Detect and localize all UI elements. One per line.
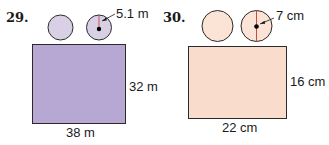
center-dot-29 <box>97 27 101 31</box>
width-label-30: 22 cm <box>222 120 257 135</box>
circle-30-left <box>202 11 233 42</box>
rectangle-29 <box>33 45 126 124</box>
problem-number-29: 29. <box>6 10 29 25</box>
problem-number-30: 30. <box>163 10 186 25</box>
figure-29 <box>33 14 126 124</box>
radius-label-29: 5.1 m <box>116 6 149 21</box>
height-label-29: 32 m <box>129 79 158 94</box>
rectangle-30 <box>189 47 287 119</box>
height-label-30: 16 cm <box>290 74 325 89</box>
radius-label-30: 7 cm <box>276 8 304 23</box>
center-dot-30 <box>254 24 259 29</box>
width-label-29: 38 m <box>66 125 95 140</box>
figure-30 <box>189 11 287 119</box>
circle-29-left <box>48 15 73 40</box>
